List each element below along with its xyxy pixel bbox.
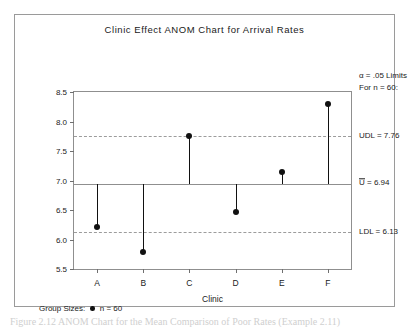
plot-area: 5.56.06.57.07.58.08.5ABCDEF: [73, 91, 352, 270]
y-axis-tick-label: 5.5: [56, 265, 67, 274]
x-axis-tick-label-f: F: [325, 278, 330, 288]
udl-reference-line: [74, 136, 351, 137]
data-point-f[interactable]: [325, 101, 331, 107]
y-axis-tick-label: 7.0: [56, 176, 67, 185]
center-line-label: U = 6.94: [359, 178, 389, 187]
data-stem-d: [236, 184, 237, 212]
y-axis-tick: [70, 269, 74, 270]
x-axis-tick: [189, 269, 190, 273]
x-axis-tick: [143, 269, 144, 273]
center-reference-line: [74, 184, 351, 185]
y-axis-tick-label: 6.5: [56, 206, 67, 215]
x-axis-tick: [328, 269, 329, 273]
data-point-e[interactable]: [279, 169, 285, 175]
alpha-limits-line-2: For n = 60:: [359, 82, 407, 94]
chart-title: Clinic Effect ANOM Chart for Arrival Rat…: [15, 24, 394, 35]
y-axis-tick-label: 7.5: [56, 147, 67, 156]
y-axis-tick: [70, 210, 74, 211]
x-axis-tick-label-b: B: [140, 278, 146, 288]
y-axis-tick: [70, 122, 74, 123]
x-axis-tick: [236, 269, 237, 273]
y-axis-tick: [70, 92, 74, 93]
center-line-value: = 6.94: [365, 178, 390, 187]
data-point-b[interactable]: [140, 249, 146, 255]
ldl-reference-line: [74, 232, 351, 233]
y-axis-tick-label: 8.5: [56, 88, 67, 97]
figure-caption: Figure 2.12 ANOM Chart for the Mean Comp…: [10, 316, 402, 327]
y-axis-tick-label: 8.0: [56, 117, 67, 126]
figure-frame: Clinic Effect ANOM Chart for Arrival Rat…: [14, 14, 395, 307]
data-stem-a: [97, 184, 98, 227]
udl-limit-label: UDL = 7.76: [359, 130, 399, 139]
data-stem-f: [328, 104, 329, 184]
ldl-limit-label: LDL = 6.13: [359, 226, 398, 235]
x-axis-tick-label-d: D: [233, 278, 239, 288]
data-stem-b: [143, 184, 144, 252]
data-point-d[interactable]: [233, 209, 239, 215]
x-axis-title: Clinic: [73, 294, 352, 304]
x-axis-tick-label-c: C: [186, 278, 192, 288]
x-axis-tick: [282, 269, 283, 273]
group-sizes-value: n = 60: [100, 304, 122, 313]
y-axis-tick: [70, 151, 74, 152]
group-sizes-legend: Group Sizes: n = 60: [39, 304, 122, 313]
y-axis-tick: [70, 240, 74, 241]
x-axis-tick-label-e: E: [279, 278, 285, 288]
alpha-limits-line-1: α = .05 Limits: [359, 70, 407, 82]
data-point-a[interactable]: [94, 224, 100, 230]
data-stem-c: [189, 136, 190, 184]
x-axis-tick: [97, 269, 98, 273]
y-axis-tick-label: 6.0: [56, 235, 67, 244]
x-axis-tick-label-a: A: [94, 278, 100, 288]
legend-dot-icon: [90, 306, 95, 311]
y-axis-tick: [70, 181, 74, 182]
group-sizes-label: Group Sizes:: [39, 304, 85, 313]
alpha-limits-note: α = .05 Limits For n = 60:: [359, 70, 407, 93]
data-point-c[interactable]: [186, 133, 192, 139]
